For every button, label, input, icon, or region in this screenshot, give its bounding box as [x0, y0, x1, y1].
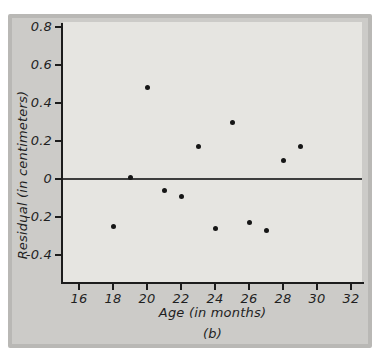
x-tick-mark — [78, 284, 80, 290]
chart-overlay: 0.80.60.40.20-0.2-0.4 161820222426283032… — [0, 0, 384, 356]
x-tick-mark — [180, 284, 182, 290]
data-point — [281, 158, 286, 163]
data-point — [230, 120, 235, 125]
x-tick-mark — [316, 284, 318, 290]
data-point — [162, 188, 167, 193]
data-point — [128, 175, 133, 180]
data-point — [111, 224, 116, 229]
y-tick-mark — [55, 254, 63, 256]
data-point — [145, 85, 150, 90]
x-axis — [61, 282, 364, 284]
data-point — [298, 144, 303, 149]
zero-reference-line — [63, 178, 362, 180]
x-tick-mark — [112, 284, 114, 290]
data-point — [247, 220, 252, 225]
x-tick-mark — [214, 284, 216, 290]
x-tick-mark — [350, 284, 352, 290]
x-tick-mark — [282, 284, 284, 290]
x-tick-mark — [248, 284, 250, 290]
x-tick-mark — [146, 284, 148, 290]
data-point — [213, 226, 218, 231]
y-axis-label: Residual (in centimeters) — [15, 91, 30, 260]
y-tick-mark — [55, 102, 63, 104]
y-tick-mark — [55, 216, 63, 218]
y-tick-mark — [55, 64, 63, 66]
data-point — [179, 194, 184, 199]
data-point — [264, 228, 269, 233]
y-tick-label: 0.6 — [13, 57, 52, 73]
residual-plot-figure: 0.80.60.40.20-0.2-0.4 161820222426283032… — [0, 0, 384, 356]
y-tick-mark — [55, 178, 63, 180]
figure-caption: (b) — [63, 326, 362, 341]
y-tick-mark — [55, 26, 63, 28]
y-axis — [61, 23, 63, 284]
x-axis-label: Age (in months) — [63, 305, 362, 320]
data-point — [196, 144, 201, 149]
y-tick-mark — [55, 140, 63, 142]
y-tick-label: 0.8 — [13, 19, 52, 35]
